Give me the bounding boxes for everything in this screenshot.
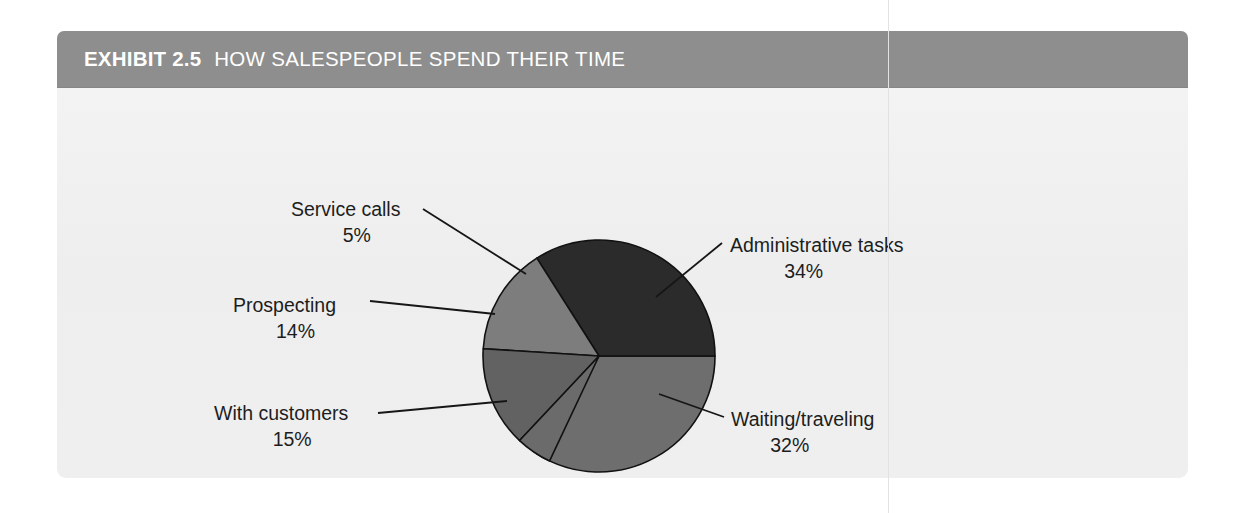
pie-label-administrative-tasks-name: Administrative tasks <box>730 232 903 258</box>
exhibit-title: EXHIBIT 2.5HOW SALESPEOPLE SPEND THEIR T… <box>84 47 625 71</box>
exhibit-title-text: HOW SALESPEOPLE SPEND THEIR TIME <box>214 47 625 70</box>
pie-label-administrative-tasks: Administrative tasks 34% <box>730 232 903 284</box>
pie-label-service-calls-name: Service calls <box>291 196 400 222</box>
leader-line-with-customers <box>378 401 507 413</box>
leader-line-service-calls <box>423 209 526 274</box>
pie-label-administrative-tasks-value: 34% <box>730 258 903 284</box>
leader-line-prospecting <box>370 301 495 314</box>
pie-label-prospecting-name: Prospecting <box>233 292 336 318</box>
pie-label-with-customers: With customers 15% <box>214 400 348 452</box>
exhibit-panel: EXHIBIT 2.5HOW SALESPEOPLE SPEND THEIR T… <box>57 31 1188 478</box>
pie-label-prospecting-value: 14% <box>233 318 336 344</box>
pie-label-prospecting: Prospecting 14% <box>233 292 336 344</box>
pie-label-with-customers-value: 15% <box>214 426 348 452</box>
exhibit-header-bar: EXHIBIT 2.5HOW SALESPEOPLE SPEND THEIR T… <box>57 31 1188 88</box>
pie-label-service-calls-value: 5% <box>291 222 400 248</box>
pie-label-waiting-traveling-name: Waiting/traveling <box>731 406 874 432</box>
pie-chart: Service calls 5% Prospecting 14% With cu… <box>57 88 1188 478</box>
pie-label-waiting-traveling-value: 32% <box>731 432 874 458</box>
exhibit-number: EXHIBIT 2.5 <box>84 47 201 70</box>
exhibit-body: Service calls 5% Prospecting 14% With cu… <box>57 88 1188 478</box>
pie-label-with-customers-name: With customers <box>214 400 348 426</box>
pie-label-service-calls: Service calls 5% <box>291 196 400 248</box>
pie-label-waiting-traveling: Waiting/traveling 32% <box>731 406 874 458</box>
pie-slices <box>483 240 715 472</box>
